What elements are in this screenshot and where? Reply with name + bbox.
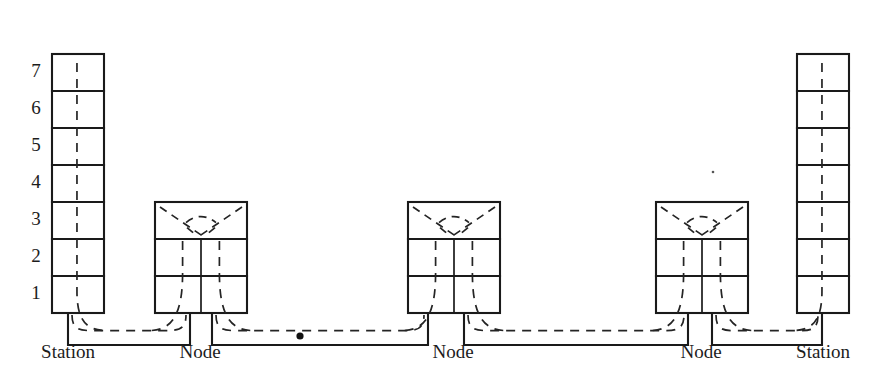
node-2-cross-track-b	[451, 207, 495, 237]
node-1-cross-track-b	[198, 207, 242, 237]
connector-4-track	[716, 315, 818, 331]
node-3	[650, 202, 755, 331]
node-2-shaft-track-right	[472, 241, 506, 331]
station-left	[52, 54, 107, 331]
station-right	[792, 54, 849, 331]
markers-layer	[296, 171, 714, 340]
node-3-cross-track-a	[661, 207, 705, 237]
page-speck	[712, 171, 715, 174]
node-1	[149, 202, 254, 331]
level-label-5: 5	[31, 134, 41, 155]
node-1-shaft-track-right	[219, 241, 253, 331]
node-2-cross-arc	[439, 217, 469, 223]
node-3-shaft-track-right	[720, 241, 754, 331]
level-label-7: 7	[31, 60, 41, 81]
caption-node-3: Node	[680, 341, 721, 362]
track-marker-dot	[296, 332, 303, 339]
station-left-shaft-track	[77, 63, 107, 331]
node-2-shaft-track-left	[402, 241, 436, 331]
node-3-cross-arc	[687, 217, 717, 223]
node-2-cross-track-a	[413, 207, 457, 237]
node-1-cross-track-a	[160, 207, 204, 237]
caption-station-left: Station	[41, 341, 95, 362]
level-label-3: 3	[31, 208, 41, 229]
node-3-shaft-track-left	[650, 241, 684, 331]
level-label-6: 6	[31, 97, 41, 118]
caption-station-right: Station	[796, 341, 850, 362]
node-1-shaft-track-left	[149, 241, 183, 331]
connector-2-track	[216, 315, 424, 331]
level-label-4: 4	[31, 171, 41, 192]
structures-layer	[52, 54, 849, 331]
node-1-cross-arc	[186, 217, 216, 223]
node-3-cross-track-b	[699, 207, 743, 237]
network-schematic-diagram: 1234567 StationNodeNodeNodeStation	[0, 0, 881, 390]
caption-node-1: Node	[179, 341, 220, 362]
level-label-1: 1	[31, 282, 41, 303]
node-2	[402, 202, 507, 331]
station-right-outline	[797, 54, 849, 313]
level-label-2: 2	[31, 245, 41, 266]
connector-3-track	[468, 315, 684, 331]
connector-1-track	[72, 315, 186, 331]
caption-node-2: Node	[432, 341, 473, 362]
station-left-outline	[52, 54, 104, 313]
level-axis-labels: 1234567	[31, 60, 41, 303]
diagram-root: 1234567 StationNodeNodeNodeStation	[0, 0, 881, 390]
